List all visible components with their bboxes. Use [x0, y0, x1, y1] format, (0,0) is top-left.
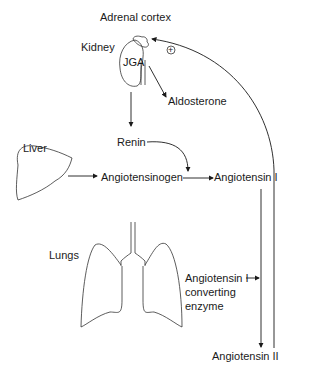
ace-label-line1: Angiotensin I: [185, 272, 249, 284]
angiotensin-1-label: Angiotensin I: [214, 171, 278, 183]
lungs-shape: [81, 222, 182, 327]
angiotensin-2-label: Angiotensin II: [212, 350, 279, 362]
ace-label-line2: converting: [185, 286, 236, 298]
jga-label: JGA: [123, 56, 144, 68]
ace-label-line3: enzyme: [185, 300, 224, 312]
lungs-label: Lungs: [49, 249, 79, 261]
aldosterone-label: Aldosterone: [168, 95, 227, 107]
kidney-label: Kidney: [81, 41, 115, 53]
adrenal-gland-shape: [133, 36, 148, 47]
renin-label: Renin: [117, 136, 146, 148]
adrenal-cortex-label: Adrenal cortex: [100, 11, 171, 23]
angiotensinogen-label: Angiotensinogen: [101, 171, 183, 183]
liver-label: Liver: [23, 142, 47, 154]
plus-icon: +: [168, 44, 173, 56]
